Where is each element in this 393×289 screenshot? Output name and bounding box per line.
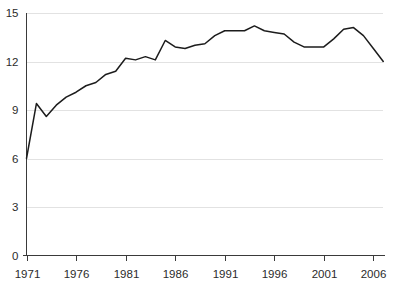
y-axis-tick-labels: 03691215 — [6, 7, 19, 262]
y-tick-label: 6 — [12, 153, 18, 165]
y-tick-label: 0 — [12, 250, 18, 262]
x-tick-label: 1991 — [213, 268, 239, 280]
x-tick-label: 1971 — [15, 268, 41, 280]
x-tick-label: 1976 — [64, 268, 90, 280]
data-series-line — [27, 26, 384, 159]
x-tick-label: 2001 — [312, 268, 338, 280]
x-tick-label: 1986 — [163, 268, 189, 280]
y-tick-label: 9 — [12, 104, 18, 116]
y-tick-label: 3 — [12, 201, 18, 213]
x-tick-label: 1996 — [262, 268, 288, 280]
y-tick-label: 15 — [6, 7, 19, 19]
x-tick-label: 2006 — [361, 268, 387, 280]
y-tick-label: 12 — [6, 56, 19, 68]
x-tick-label: 1981 — [114, 268, 140, 280]
line-chart: 03691215 1971197619811986199119962001200… — [0, 0, 393, 289]
chart-container: 03691215 1971197619811986199119962001200… — [0, 0, 393, 289]
x-axis-tick-labels: 19711976198119861991199620012006 — [15, 268, 387, 280]
